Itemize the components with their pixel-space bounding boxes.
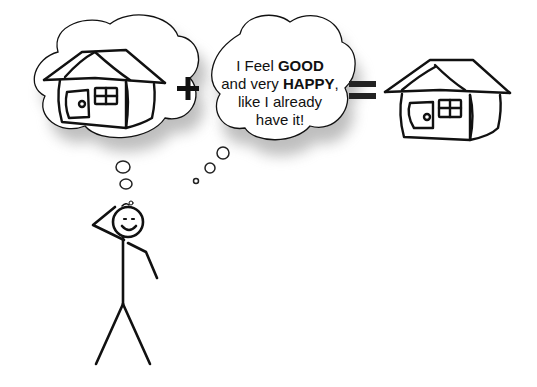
thought-line-4: have it! bbox=[219, 111, 341, 129]
house-icon bbox=[385, 60, 510, 140]
left-thought-cloud bbox=[34, 15, 198, 138]
thought-line-3: like I already bbox=[219, 93, 341, 111]
thought-line-1: I Feel GOOD bbox=[219, 57, 341, 75]
left-thought-dots bbox=[116, 161, 132, 189]
line2-suffix: , bbox=[335, 75, 339, 92]
right-thought-text: I Feel GOOD and very HAPPY, like I alrea… bbox=[219, 57, 341, 129]
line1-prefix: I Feel bbox=[236, 57, 278, 74]
line1-bold: GOOD bbox=[278, 57, 324, 74]
thought-line-2: and very HAPPY, bbox=[219, 75, 341, 93]
line2-bold: HAPPY bbox=[283, 75, 335, 92]
stick-figure bbox=[93, 201, 157, 364]
line2-prefix: and very bbox=[221, 75, 283, 92]
right-thought-dots bbox=[194, 147, 230, 184]
